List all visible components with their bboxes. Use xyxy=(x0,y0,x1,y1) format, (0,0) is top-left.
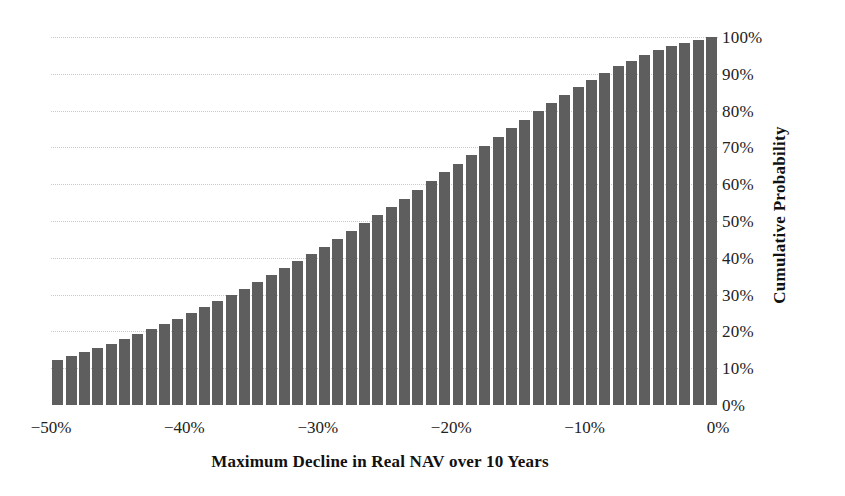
bar xyxy=(306,254,317,405)
bar xyxy=(186,313,197,405)
x-axis-tick-label: −20% xyxy=(431,418,472,438)
bar xyxy=(252,282,263,405)
bar xyxy=(199,307,210,405)
x-axis-tick-label: −10% xyxy=(564,418,605,438)
bar xyxy=(386,207,397,405)
bar xyxy=(639,55,650,405)
bar xyxy=(346,231,357,405)
y-axis-title-text: Cumulative Probability xyxy=(770,126,790,304)
bar xyxy=(613,66,624,405)
bar xyxy=(159,324,170,405)
bar xyxy=(626,61,637,405)
bar xyxy=(332,239,343,405)
bar xyxy=(106,344,117,405)
bar xyxy=(292,261,303,405)
bar xyxy=(679,43,690,405)
bar xyxy=(453,164,464,405)
bar xyxy=(79,352,90,405)
bar xyxy=(533,111,544,405)
bar xyxy=(239,289,250,405)
bar xyxy=(599,73,610,405)
bar xyxy=(706,37,717,405)
bar xyxy=(146,329,157,405)
bar xyxy=(132,334,143,405)
bar xyxy=(226,295,237,405)
bar xyxy=(426,181,437,405)
bar xyxy=(172,319,183,405)
bar xyxy=(412,190,423,405)
x-axis-tick-labels: −50%−40%−30%−20%−10%0% xyxy=(0,418,845,442)
bar xyxy=(586,80,597,405)
bar xyxy=(212,301,223,405)
x-axis-title: Maximum Decline in Real NAV over 10 Year… xyxy=(0,452,760,472)
bar xyxy=(92,348,103,405)
bar xyxy=(399,199,410,405)
x-axis-tick-label: 0% xyxy=(707,418,730,438)
bar xyxy=(266,275,277,405)
y-axis-title: Cumulative Probability xyxy=(760,0,800,430)
bar xyxy=(506,128,517,405)
bar xyxy=(546,103,557,405)
bar xyxy=(279,268,290,405)
bar xyxy=(559,95,570,405)
bar xyxy=(573,87,584,405)
bar xyxy=(119,339,130,405)
bar xyxy=(479,146,490,405)
bar xyxy=(466,155,477,405)
bar xyxy=(52,360,63,405)
bar-series xyxy=(51,37,718,405)
bar xyxy=(319,247,330,405)
bar xyxy=(359,223,370,405)
bar xyxy=(693,40,704,405)
bar xyxy=(439,172,450,405)
bar xyxy=(372,215,383,405)
bar xyxy=(519,120,530,405)
bar xyxy=(493,137,504,405)
x-axis-tick-label: −50% xyxy=(31,418,72,438)
plot-area xyxy=(51,37,718,405)
x-axis-tick-label: −30% xyxy=(297,418,338,438)
bar xyxy=(666,46,677,405)
bar xyxy=(66,356,77,405)
x-axis-tick-label: −40% xyxy=(164,418,205,438)
chart-figure: 0%10%20%30%40%50%60%70%80%90%100% Cumula… xyxy=(0,0,845,496)
bar xyxy=(653,50,664,405)
